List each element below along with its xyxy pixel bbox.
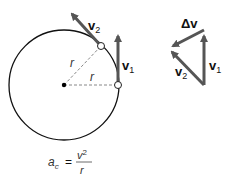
centripetal-acceleration-formula: ac = v2 r [48, 148, 92, 176]
svg-text:=: = [65, 155, 72, 169]
label-v1: v1 [122, 58, 134, 75]
triangle-delta-v-arrow [173, 30, 204, 46]
position-1-marker [115, 82, 122, 89]
label-radius-lower: r [90, 70, 95, 84]
label-v2: v2 [88, 18, 100, 35]
svg-text:ac: ac [48, 155, 59, 171]
svg-text:r: r [80, 164, 85, 176]
circular-motion-diagram: v2 v1 r r Δv v1 v2 ac = v2 r [0, 0, 227, 180]
svg-text:v2: v2 [77, 148, 88, 161]
label-delta-v: Δv [181, 16, 198, 31]
label-radius-upper: r [70, 56, 75, 70]
label-triangle-v1: v1 [209, 58, 221, 75]
position-2-marker [98, 43, 105, 50]
center-point [62, 83, 66, 87]
